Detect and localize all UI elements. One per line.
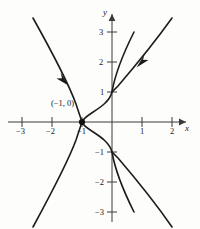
x-tick-label--3: −3	[16, 127, 25, 136]
y-tick-label--1: −1	[95, 148, 104, 157]
x-axis-label: x	[185, 124, 189, 133]
y-tick-label-3: 3	[99, 28, 103, 37]
y-tick-label-2: 2	[99, 58, 103, 67]
curve-outer-lower-right	[112, 152, 172, 227]
x-tick-label--1: −1	[77, 127, 86, 136]
y-tick-label--2: −2	[95, 178, 104, 187]
y-axis-label: y	[103, 8, 107, 17]
vertex-label: (−1, 0)	[51, 99, 74, 108]
y-tick-label--3: −3	[95, 208, 104, 217]
graph-figure: −3 −2 −1 1 2 3 2 1 −1 −2 −3 x y (−1, 0)	[0, 0, 200, 229]
curve-outer-upper-right	[112, 18, 172, 92]
y-axis-arrowhead	[109, 14, 116, 21]
x-tick-label-2: 2	[170, 127, 174, 136]
y-tick-label-1: 1	[100, 88, 104, 97]
x-tick-label-1: 1	[140, 127, 144, 136]
curve-outer-lower-left	[33, 122, 82, 227]
vertex-point-dot	[79, 119, 85, 125]
x-tick-label--2: −2	[46, 127, 55, 136]
